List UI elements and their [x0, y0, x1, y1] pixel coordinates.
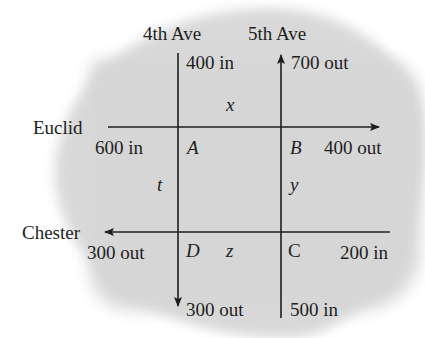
flow-5th-top: 700 out — [291, 53, 349, 72]
flow-chester-left: 300 out — [87, 243, 145, 262]
flow-4th-bottom: 300 out — [186, 300, 244, 319]
flow-euclid-left: 600 in — [95, 138, 143, 157]
intersection-a: A — [187, 138, 199, 157]
intersection-d: D — [186, 241, 200, 260]
flow-chester-right: 200 in — [340, 243, 388, 262]
unknown-x: x — [226, 95, 234, 114]
flow-euclid-right: 400 out — [324, 138, 382, 157]
unknown-y: y — [290, 175, 298, 194]
flow-4th-top: 400 in — [186, 53, 234, 72]
street-label-chester: Chester — [22, 223, 80, 242]
unknown-z: z — [226, 241, 233, 260]
street-label-euclid: Euclid — [33, 118, 83, 137]
flow-5th-bottom: 500 in — [290, 300, 338, 319]
avenue-label-4th: 4th Ave — [143, 24, 201, 43]
avenue-label-5th: 5th Ave — [248, 24, 306, 43]
unknown-t: t — [157, 175, 162, 194]
intersection-b: B — [290, 138, 302, 157]
intersection-c: C — [288, 241, 301, 260]
